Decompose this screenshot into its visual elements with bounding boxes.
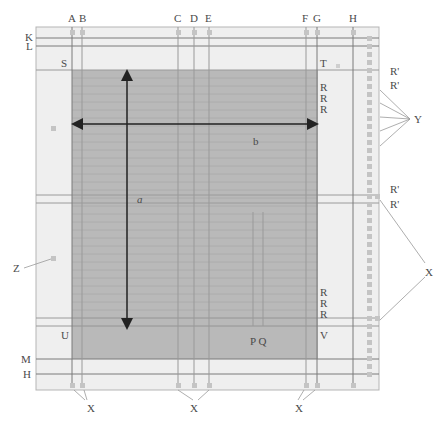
- page-grid-diagram: A B C D E F G H K L M H Z S T U V R' R' …: [0, 0, 444, 426]
- label-R-top-3: R: [320, 103, 328, 115]
- label-B: B: [79, 12, 86, 24]
- label-R-bottom-3: R: [320, 308, 328, 320]
- label-S: S: [61, 57, 67, 69]
- label-V: V: [320, 329, 328, 341]
- left-marker-Z: [51, 256, 56, 261]
- label-U: U: [61, 329, 69, 341]
- label-X-bottom-1: X: [87, 402, 95, 414]
- label-L: L: [26, 40, 33, 52]
- label-X-right: X: [425, 266, 433, 278]
- label-C: C: [174, 12, 181, 24]
- text-block: [72, 70, 318, 359]
- left-marker-top: [51, 126, 56, 131]
- label-F: F: [302, 12, 308, 24]
- label-r-prime-1: R': [390, 65, 399, 77]
- label-H-top: H: [349, 12, 357, 24]
- label-Z: Z: [13, 262, 20, 274]
- label-b: b: [253, 135, 259, 147]
- label-A: A: [68, 12, 76, 24]
- label-a: a: [137, 193, 143, 205]
- label-Y: Y: [414, 113, 422, 125]
- label-T: T: [320, 57, 327, 69]
- label-H-left: H: [23, 368, 31, 380]
- marker-T: [336, 64, 340, 68]
- label-r-prime-2: R': [390, 79, 399, 91]
- label-PQ: P Q: [250, 335, 266, 347]
- label-r-prime-3: R': [390, 183, 399, 195]
- label-G: G: [313, 12, 321, 24]
- label-X-bottom-2: X: [190, 402, 198, 414]
- label-D: D: [190, 12, 198, 24]
- label-X-bottom-3: X: [295, 402, 303, 414]
- label-r-prime-4: R': [390, 198, 399, 210]
- label-E: E: [205, 12, 212, 24]
- label-M: M: [21, 353, 31, 365]
